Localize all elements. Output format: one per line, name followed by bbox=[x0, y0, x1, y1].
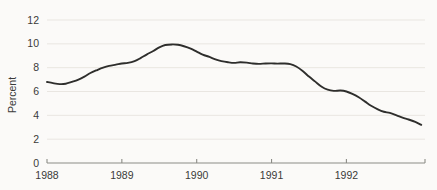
y-tick-label: 6 bbox=[33, 85, 39, 97]
grid-lines bbox=[47, 20, 425, 139]
x-axis-tick-labels: 19881989199019911992 bbox=[35, 169, 358, 181]
y-tick-label: 8 bbox=[33, 61, 39, 73]
y-tick-label: 12 bbox=[27, 14, 39, 26]
chart-screenshot: 024681012 19881989199019911992 Percent bbox=[0, 0, 437, 190]
x-tick-label: 1989 bbox=[110, 169, 134, 181]
x-tick-label: 1991 bbox=[260, 169, 284, 181]
line-chart: 024681012 19881989199019911992 Percent bbox=[0, 0, 437, 190]
x-tick-label: 1988 bbox=[35, 169, 59, 181]
y-tick-label: 2 bbox=[33, 133, 39, 145]
y-axis-title: Percent bbox=[6, 77, 18, 113]
y-tick-label: 4 bbox=[33, 109, 39, 121]
y-tick-label: 0 bbox=[33, 157, 39, 169]
x-tick-label: 1990 bbox=[185, 169, 209, 181]
data-series-group bbox=[47, 44, 421, 124]
y-tick-label: 10 bbox=[27, 37, 39, 49]
y-axis-tick-labels: 024681012 bbox=[27, 14, 39, 169]
x-axis bbox=[47, 159, 425, 163]
x-tick-label: 1992 bbox=[335, 169, 359, 181]
data-line-percent bbox=[47, 44, 421, 124]
